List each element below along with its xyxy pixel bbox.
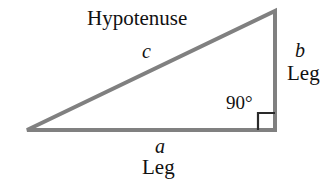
label-side-b: b xyxy=(295,40,305,60)
label-side-a: a xyxy=(155,136,165,156)
label-right-angle: 90° xyxy=(226,93,253,112)
label-hypotenuse: Hypotenuse xyxy=(87,8,187,29)
right-triangle-figure: Hypotenuse c b Leg 90° a Leg xyxy=(0,0,327,191)
label-leg-right: Leg xyxy=(287,63,320,84)
label-side-c: c xyxy=(142,41,151,61)
right-angle-marker-icon xyxy=(258,113,275,130)
label-leg-bottom: Leg xyxy=(142,157,175,178)
